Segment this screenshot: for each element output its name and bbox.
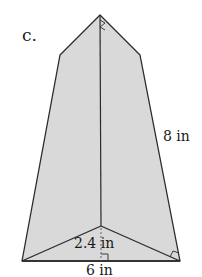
slant-height-label: 8 in xyxy=(163,129,190,143)
part-label: c. xyxy=(22,27,37,44)
pyramid-figure: c. 8 in 2.4 in 6 in xyxy=(0,0,202,277)
triangle-height-label: 2.4 in xyxy=(74,236,114,250)
base-side-label: 6 in xyxy=(86,263,113,277)
